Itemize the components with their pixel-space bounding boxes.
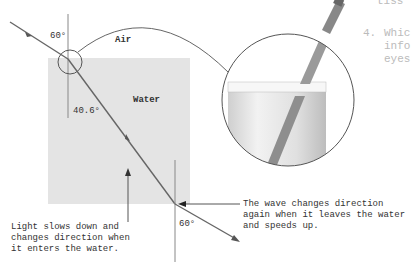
exit-angle-label: 60°: [179, 219, 195, 230]
entry-annotation: Light slows down and changes direction w…: [11, 222, 130, 255]
water-region: [48, 58, 190, 204]
side-text-line1: Whic: [384, 27, 410, 40]
water-label: Water: [133, 95, 160, 106]
side-text-line3: eyes: [384, 53, 410, 66]
refracted-angle-label: 40.6°: [73, 106, 100, 117]
exit-annotation: The wave changes direction again when it…: [243, 199, 405, 232]
side-text-line2: info: [384, 40, 410, 53]
air-label: Air: [115, 35, 131, 46]
incident-angle-label: 60°: [50, 31, 66, 42]
question-number: 4.: [363, 27, 376, 40]
side-text-line0: tiss: [377, 0, 403, 8]
pencil-glass-inset: [222, 0, 354, 178]
